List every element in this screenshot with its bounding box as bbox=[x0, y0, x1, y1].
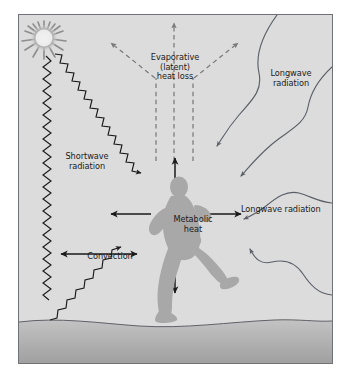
longwave-radiation-waves bbox=[217, 15, 332, 295]
label-shortwave-line2: radiation bbox=[53, 162, 121, 172]
label-longwave-radiation-lower: Longwave radiation bbox=[241, 205, 333, 215]
label-longwave-upper-line2: radiation bbox=[259, 79, 323, 89]
label-metabolic-line2: heat bbox=[162, 225, 224, 235]
label-convection: Convection bbox=[79, 252, 141, 262]
shortwave-radiation-rays bbox=[43, 54, 141, 320]
label-shortwave-radiation: Shortwave radiation bbox=[53, 152, 121, 171]
label-evaporative-heat-loss: Evaporative (latent) heat loss bbox=[140, 53, 210, 82]
label-evaporative-line3: heat loss bbox=[140, 72, 210, 82]
running-person-icon bbox=[149, 177, 239, 324]
ground-layer bbox=[19, 320, 332, 363]
label-metabolic-heat: Metabolic heat bbox=[162, 215, 224, 234]
evaporative-heat-loss-arrows bbox=[111, 23, 238, 161]
figure-canvas: Evaporative (latent) heat loss Longwave … bbox=[0, 0, 348, 378]
sun-icon bbox=[22, 21, 66, 59]
label-convection-line1: Convection bbox=[79, 252, 141, 262]
label-longwave-lower-line1: Longwave radiation bbox=[241, 205, 333, 215]
diagram-panel: Evaporative (latent) heat loss Longwave … bbox=[18, 14, 333, 364]
label-longwave-radiation-upper: Longwave radiation bbox=[259, 69, 323, 88]
